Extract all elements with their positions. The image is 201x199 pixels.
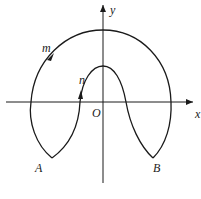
path-m-label: m — [42, 41, 51, 55]
origin-label: O — [92, 106, 101, 120]
point-a-label: A — [34, 161, 43, 175]
point-b-label: B — [153, 161, 161, 175]
outer-trajectory-m — [30, 30, 171, 158]
path-n-label: n — [79, 73, 85, 87]
trajectory-diagram: y x O m n A B — [0, 0, 201, 199]
y-axis-label: y — [109, 3, 116, 17]
x-axis-label: x — [194, 107, 201, 121]
